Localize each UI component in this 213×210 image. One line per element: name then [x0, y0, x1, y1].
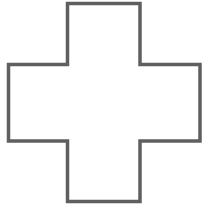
- cross-diagram: [0, 0, 213, 210]
- cross-outline-shape: [9, 4, 201, 202]
